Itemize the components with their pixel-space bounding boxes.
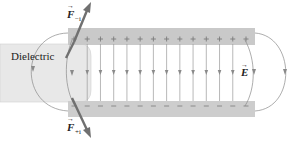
bottom-plate bbox=[68, 101, 255, 117]
capacitor-diagram: Dielectric F → −i F → +i E → bbox=[0, 0, 297, 147]
svg-text:→: → bbox=[67, 115, 74, 123]
field-label: E → bbox=[240, 61, 248, 78]
dielectric-label: Dielectric bbox=[11, 50, 54, 62]
svg-text:→: → bbox=[67, 2, 74, 10]
top-plate bbox=[68, 28, 255, 45]
force-top-label: F → −i bbox=[66, 2, 81, 23]
svg-text:+i: +i bbox=[75, 128, 81, 136]
svg-text:−i: −i bbox=[75, 15, 81, 23]
svg-text:→: → bbox=[241, 61, 248, 69]
right-fringe-outer bbox=[255, 33, 286, 111]
force-bottom-label: F → +i bbox=[66, 115, 81, 136]
field-lines bbox=[85, 44, 234, 101]
